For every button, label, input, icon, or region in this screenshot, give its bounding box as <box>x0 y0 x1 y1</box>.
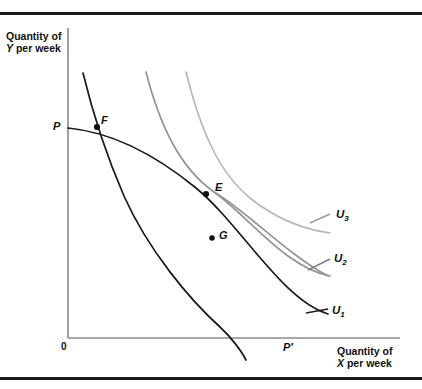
point-marker-g <box>209 235 215 241</box>
origin-label: 0 <box>61 341 67 353</box>
x-axis-title: Quantity of X per week <box>337 345 392 370</box>
y-axis-title: Quantity of Y per week <box>6 30 61 55</box>
point-label-g: G <box>219 229 228 242</box>
y-axis-title-suffix: per week <box>13 42 61 54</box>
curve-u2 <box>146 72 330 276</box>
figure-container: Quantity of Y per week Quantity of X per… <box>0 0 422 389</box>
point-label-f: F <box>101 114 108 127</box>
point-marker-f <box>94 124 100 130</box>
point-label-p-prime: P′ <box>283 341 293 354</box>
x-axis-variable: X <box>337 357 344 369</box>
curve-label-u3: U3 <box>336 208 349 224</box>
point-label-p: P <box>53 120 60 133</box>
y-axis-variable: Y <box>6 42 13 54</box>
curve-u2-tail <box>214 192 328 276</box>
curve-label-u1: U1 <box>332 304 345 320</box>
y-axis-title-line1: Quantity of <box>6 30 61 42</box>
x-axis-title-line1: Quantity of <box>337 345 392 357</box>
curve-label-u2-sub: 2 <box>342 258 346 267</box>
curve-label-u2: U2 <box>334 252 347 268</box>
curve-u3 <box>186 72 330 233</box>
y-axis-title-line2: Y per week <box>6 42 61 54</box>
x-axis-title-line2: X per week <box>337 357 392 369</box>
curve-label-u1-sub: 1 <box>340 310 344 319</box>
leader-line-u2 <box>308 259 330 270</box>
point-label-e: E <box>215 181 222 194</box>
x-axis-title-suffix: per week <box>344 357 392 369</box>
leader-line-u3 <box>310 214 330 223</box>
curve-label-u3-sub: 3 <box>344 214 348 223</box>
plot-area <box>0 0 422 389</box>
point-marker-e <box>203 191 209 197</box>
